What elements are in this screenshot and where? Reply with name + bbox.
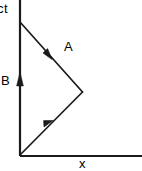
x-axis-label: x bbox=[79, 157, 86, 170]
spacetime-diagram-figure: ct x A B bbox=[0, 0, 142, 171]
ct-axis-label: ct bbox=[0, 2, 8, 15]
segment-a-label: A bbox=[64, 40, 73, 53]
diagram-canvas bbox=[0, 0, 142, 171]
arrowhead-segment-b-icon bbox=[17, 72, 24, 86]
worldline-segment-return bbox=[20, 92, 83, 155]
segment-b-label: B bbox=[1, 74, 10, 87]
